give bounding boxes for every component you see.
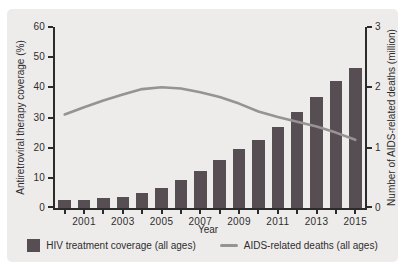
legend-label-deaths: AIDS-related deaths (all ages): [244, 240, 378, 251]
right-axis-tick: [367, 206, 372, 208]
x-axis-tick: [219, 210, 221, 214]
left-axis-tick: [48, 117, 53, 119]
legend-label-coverage: HIV treatment coverage (all ages): [46, 240, 196, 251]
x-axis-tick: [316, 210, 318, 214]
right-axis-tick: [367, 26, 372, 28]
right-axis-tick: [367, 86, 372, 88]
x-axis-tick: [335, 210, 337, 214]
x-axis-tick: [64, 210, 66, 214]
left-axis-tick-label: 40: [7, 81, 45, 93]
bar-swatch-icon: [27, 239, 40, 252]
right-axis-tick-label: 0: [375, 202, 399, 214]
figure-panel: Antiretroviral therapy coverage (%) Numb…: [7, 9, 398, 262]
left-axis-tick: [48, 147, 53, 149]
x-axis-tick-label: 2015: [333, 216, 377, 228]
x-axis-tick: [161, 210, 163, 214]
x-axis-tick: [83, 210, 85, 214]
right-axis-tick-label: 1: [375, 142, 399, 154]
legend-item-coverage: HIV treatment coverage (all ages): [27, 239, 196, 252]
left-axis-tick: [48, 86, 53, 88]
left-axis-tick: [48, 26, 53, 28]
x-axis-tick-label: 2003: [101, 216, 145, 228]
left-axis-tick: [48, 206, 53, 208]
left-axis-tick-label: 50: [7, 51, 45, 63]
x-axis-tick-label: 2013: [295, 216, 339, 228]
left-axis-tick-label: 20: [7, 142, 45, 154]
x-axis-tick: [238, 210, 240, 214]
left-axis-tick-label: 0: [7, 202, 45, 214]
x-axis-tick-label: 2005: [140, 216, 184, 228]
x-axis-tick: [199, 210, 201, 214]
x-axis-tick: [296, 210, 298, 214]
x-axis-tick: [141, 210, 143, 214]
x-axis-tick: [102, 210, 104, 214]
plot-area: 0102030405060012320012003200520072009201…: [53, 27, 367, 210]
left-axis-tick: [48, 177, 53, 179]
x-axis-tick: [277, 210, 279, 214]
left-axis-tick-label: 30: [7, 112, 45, 124]
x-axis-tick: [180, 210, 182, 214]
left-axis-tick-label: 10: [7, 172, 45, 184]
x-axis-tick: [122, 210, 124, 214]
right-axis-title: Number of AIDS-related deaths (million): [385, 27, 398, 208]
x-axis-tick: [354, 210, 356, 214]
x-axis-tick-label: 2001: [62, 216, 106, 228]
legend-item-deaths: AIDS-related deaths (all ages): [220, 240, 378, 251]
x-axis-tick-label: 2011: [256, 216, 300, 228]
right-axis-tick: [367, 147, 372, 149]
deaths-line: [55, 27, 365, 208]
x-axis-title: Year: [178, 224, 238, 236]
line-swatch-icon: [220, 244, 238, 247]
right-axis-tick-label: 3: [375, 21, 399, 33]
right-axis-tick-label: 2: [375, 81, 399, 93]
left-axis-tick-label: 60: [7, 21, 45, 33]
x-axis-tick: [257, 210, 259, 214]
left-axis-tick: [48, 56, 53, 58]
legend: HIV treatment coverage (all ages) AIDS-r…: [7, 239, 398, 252]
